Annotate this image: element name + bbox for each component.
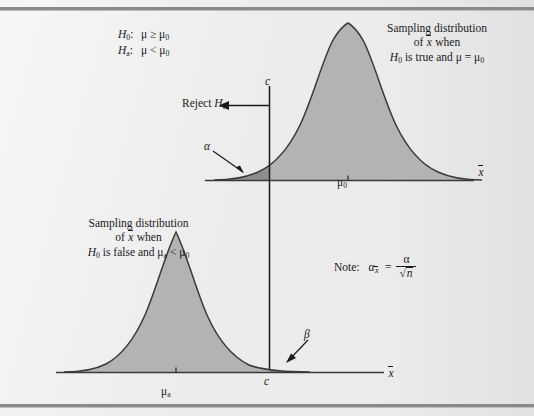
caption-bottom-line1: Sampling distribution — [46, 216, 231, 230]
reject-h-sub: 0 — [223, 102, 227, 111]
alt-mu0-sub: 0 — [165, 49, 169, 58]
reject-region-label: Reject H0 — [182, 96, 226, 112]
note-label: Note: — [334, 261, 360, 273]
note-numerator: α — [396, 253, 416, 267]
caption-top-h: H — [390, 51, 398, 63]
caption-top-mid: is true and — [402, 51, 456, 63]
null-hypothesis: H0: μ ≥ μ0 — [118, 27, 169, 43]
note-alpha-sub-xbar: x — [374, 266, 379, 275]
mu0-axis-label: μ0 — [337, 175, 347, 191]
caption-top-equals: = — [462, 51, 474, 63]
alt-colon: : — [130, 44, 133, 56]
caption-bottom-h: H — [88, 246, 96, 258]
alternative-hypothesis: Ha: μ < μ0 — [118, 43, 169, 59]
caption-bottom-distribution: Sampling distribution of x when H0 is fa… — [46, 216, 231, 261]
null-mu: μ — [141, 28, 147, 40]
caption-bottom-line3: H0 is false and μa < μ0 — [46, 245, 231, 261]
note-denominator: √n — [396, 267, 416, 281]
statistics-figure: H0: μ ≥ μ0 Ha: μ < μ0 Sampling distribut… — [0, 0, 534, 416]
caption-top-mu0-sub: 0 — [480, 56, 484, 65]
caption-top-when: when — [432, 36, 460, 48]
alpha-leader-arrowhead — [236, 166, 245, 174]
null-colon: : — [130, 28, 133, 40]
xbar-axis-label-bottom: x — [388, 366, 394, 380]
caption-bottom-mid: is false and — [100, 246, 157, 258]
caption-bottom-line2: of x when — [46, 230, 231, 244]
reject-h: H — [214, 97, 222, 109]
reject-word: Reject — [182, 97, 214, 109]
critical-value-label-top: c — [265, 74, 270, 88]
null-mu0-sub: 0 — [165, 33, 169, 42]
caption-bottom-xbar: x — [128, 231, 134, 243]
caption-top-xbar: x — [426, 36, 432, 48]
caption-bottom-op: < — [167, 246, 179, 258]
null-operator: ≥ — [150, 28, 156, 40]
caption-bottom-of: of — [115, 231, 127, 243]
note-radicand: n — [406, 267, 414, 279]
alt-mu: μ — [141, 44, 147, 56]
xbar-axis-label-top: x — [478, 165, 484, 179]
mu0-glyph-sub: 0 — [343, 181, 347, 190]
xbar-glyph-bottom: x — [388, 367, 394, 379]
caption-top-of: of — [414, 36, 426, 48]
note-equals: = — [385, 261, 392, 273]
alpha-symbol-label: α — [204, 139, 210, 153]
caption-top-line3: H0 is true and μ = μ0 — [352, 50, 522, 66]
mua-axis-label: μa — [161, 384, 171, 400]
caption-bottom-when: when — [134, 231, 162, 243]
note-fraction: α √n — [396, 253, 416, 281]
critical-value-label-bottom: c — [264, 374, 269, 388]
caption-top-line2: of x when — [352, 35, 522, 49]
caption-bottom-mu0-sub: 0 — [185, 251, 189, 260]
mua-glyph-sub: a — [167, 390, 170, 399]
alt-operator: < — [150, 44, 157, 56]
note-alpha-xbar: αx — [368, 261, 379, 273]
hypotheses-block: H0: μ ≥ μ0 Ha: μ < μ0 — [118, 27, 169, 59]
note-formula: Note: αx = α √n — [334, 253, 416, 281]
caption-top-distribution: Sampling distribution of x when H0 is tr… — [352, 21, 522, 66]
caption-top-line1: Sampling distribution — [352, 21, 522, 35]
xbar-glyph-top: x — [478, 166, 484, 178]
beta-symbol-label: β — [304, 327, 310, 341]
